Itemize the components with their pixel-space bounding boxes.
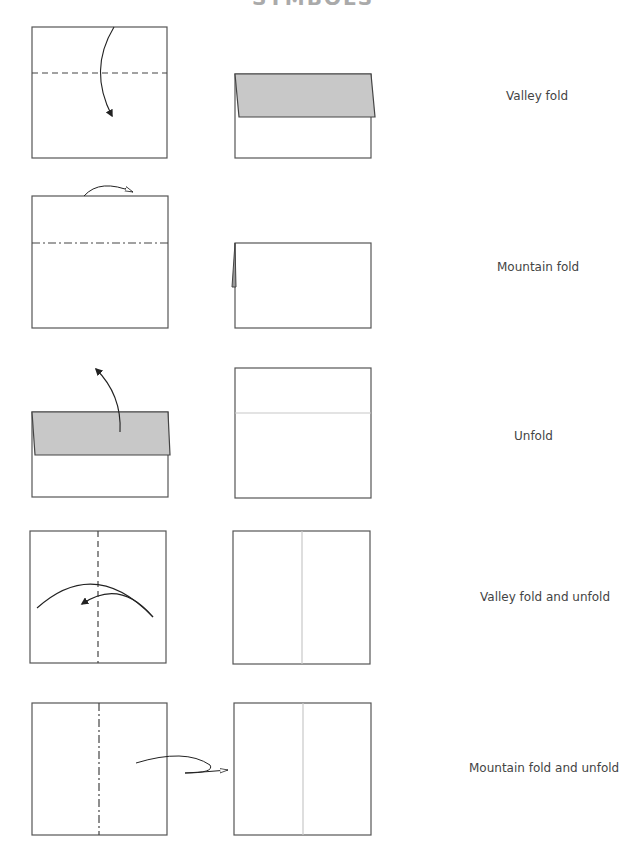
valley-fold-before (32, 27, 167, 158)
row-valley-fold-unfold (30, 531, 370, 664)
row-valley-fold (32, 27, 375, 158)
row-mountain-fold (32, 186, 371, 328)
mountain-fold-arrow-icon (84, 186, 133, 196)
valley-fold-unfold-after (233, 531, 370, 664)
label-unfold: Unfold (514, 429, 553, 443)
valley-fold-unfold-before (30, 531, 166, 663)
label-mountain-fold-and-unfold: Mountain fold and unfold (469, 761, 619, 775)
label-mountain-fold: Mountain fold (497, 260, 579, 274)
folded-flap (235, 74, 375, 117)
mountain-fold-unfold-before (32, 703, 228, 835)
row-unfold (32, 368, 371, 498)
label-valley-fold-and-unfold: Valley fold and unfold (480, 590, 610, 604)
mountain-fold-before (32, 186, 168, 328)
row-mountain-fold-unfold (32, 703, 371, 835)
mountain-fold-after (232, 243, 371, 328)
unfold-after (235, 368, 371, 498)
label-valley-fold: Valley fold (506, 89, 568, 103)
valley-fold-after (235, 74, 375, 158)
unfold-before (32, 369, 170, 497)
mountain-fold-unfold-after (234, 703, 371, 835)
